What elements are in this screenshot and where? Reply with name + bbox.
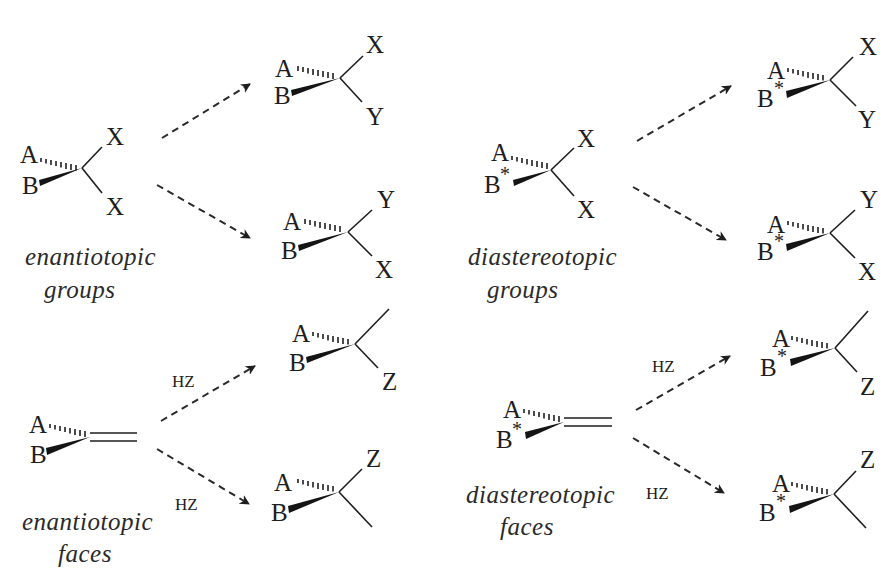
solid-wedge-bond-icon xyxy=(288,492,339,513)
hashed-wedge-bond-icon xyxy=(788,221,823,234)
atom-b: B xyxy=(760,354,777,381)
solid-wedge-bond-icon xyxy=(513,170,551,186)
caption-line1: diastereotopic xyxy=(468,243,617,270)
product-bottom-molecule: A B Z xyxy=(271,445,381,527)
hashed-wedge-bond-icon xyxy=(524,409,559,422)
atom-b: B xyxy=(274,82,291,109)
substrate-molecule: A B * X X xyxy=(484,125,595,223)
hashed-wedge-bond-icon xyxy=(50,424,85,437)
hashed-wedge-bond-icon xyxy=(788,68,823,81)
solid-wedge-bond-icon xyxy=(790,348,835,366)
stereocenter-mark: * xyxy=(774,230,784,252)
reagent-label: HZ xyxy=(646,484,669,503)
atom-down: X xyxy=(375,256,393,283)
atom-down: Z xyxy=(860,373,875,400)
atom-up: X xyxy=(366,31,384,58)
hashed-wedge-bond-icon xyxy=(313,332,348,345)
atom-a: A xyxy=(491,139,509,166)
stereocenter-mark: * xyxy=(777,345,787,367)
substrate-alkene: A B xyxy=(29,411,137,468)
product-top-molecule: A B X Y xyxy=(274,31,384,130)
substrate-alkene: A B * xyxy=(496,396,612,453)
atom-up: X xyxy=(106,123,124,150)
solid-wedge-bond-icon xyxy=(298,232,348,251)
reagent-label: HZ xyxy=(172,372,195,391)
panel-enantiotopic-groups: A B X X A B X Y xyxy=(20,31,395,303)
hashed-wedge-bond-icon xyxy=(305,219,340,232)
solid-wedge-bond-icon xyxy=(786,80,830,98)
atom-a: A xyxy=(29,411,47,438)
atom-a: A xyxy=(283,208,301,235)
atom-b: B xyxy=(496,426,513,453)
caption-line2: faces xyxy=(500,513,554,540)
atom-down: X xyxy=(858,258,876,285)
product-bottom-molecule: A B * Z xyxy=(759,446,875,528)
atom-b: B xyxy=(757,238,774,265)
stereocenter-mark: * xyxy=(500,163,510,185)
hashed-wedge-bond-icon xyxy=(41,158,76,171)
atom-up: X xyxy=(577,125,595,152)
atom-down: X xyxy=(577,196,595,223)
atom-up: X xyxy=(859,33,877,60)
topicity-diagram: A B X X A B X Y xyxy=(0,0,894,578)
atom-b: B xyxy=(484,171,501,198)
atom-a: A xyxy=(20,141,38,168)
atom-b: B xyxy=(759,499,776,526)
atom-b: B xyxy=(22,172,39,199)
solid-wedge-bond-icon xyxy=(39,168,82,186)
stereocenter-mark: * xyxy=(512,418,522,440)
reagent-label: HZ xyxy=(175,495,198,514)
product-top-molecule: A B Z xyxy=(289,309,397,395)
hashed-wedge-bond-icon xyxy=(512,156,547,169)
atom-up: Z xyxy=(860,446,875,473)
hashed-wedge-bond-icon xyxy=(792,336,827,349)
hashed-wedge-bond-icon xyxy=(792,482,827,495)
atom-b: B xyxy=(289,349,306,376)
caption-line1: diastereotopic xyxy=(466,481,615,508)
reagent-label: HZ xyxy=(652,357,675,376)
panel-diastereotopic-groups: A B * X X A B * X xyxy=(468,33,878,303)
dashed-arrow-icon xyxy=(157,449,249,504)
atom-down: X xyxy=(106,193,124,220)
solid-wedge-bond-icon xyxy=(789,494,834,513)
caption-line1: enantiotopic xyxy=(25,243,156,270)
hashed-wedge-bond-icon xyxy=(298,479,333,492)
dashed-arrow-icon xyxy=(636,356,730,410)
caption-line2: groups xyxy=(487,276,559,303)
atom-b: B xyxy=(30,441,47,468)
dashed-arrow-icon xyxy=(162,84,250,138)
caption-line1: enantiotopic xyxy=(22,508,153,535)
dashed-arrow-icon xyxy=(637,86,731,141)
solid-wedge-bond-icon xyxy=(306,344,355,363)
solid-wedge-bond-icon xyxy=(786,233,830,251)
atom-up: Y xyxy=(377,186,395,213)
panel-diastereotopic-faces: A B * HZ HZ A B * Z xyxy=(466,311,875,540)
atom-up: Z xyxy=(366,445,381,472)
atom-b: B xyxy=(271,499,288,526)
substrate-molecule: A B X X xyxy=(20,123,124,220)
atom-a: A xyxy=(292,320,310,347)
stereocenter-mark: * xyxy=(774,77,784,99)
atom-b: B xyxy=(281,237,298,264)
solid-wedge-bond-icon xyxy=(525,422,564,439)
atom-a: A xyxy=(275,55,293,82)
atom-up: Y xyxy=(860,186,878,213)
product-top-molecule: A B * Z xyxy=(760,311,875,400)
stereocenter-mark: * xyxy=(776,490,786,512)
product-bottom-molecule: A B Y X xyxy=(281,186,395,283)
caption-line2: groups xyxy=(44,276,116,303)
atom-down: Y xyxy=(366,103,384,130)
solid-wedge-bond-icon xyxy=(291,78,340,96)
atom-b: B xyxy=(757,85,774,112)
atom-down: Y xyxy=(858,106,876,133)
hashed-wedge-bond-icon xyxy=(298,66,333,79)
dashed-arrow-icon xyxy=(157,185,250,238)
caption-line2: faces xyxy=(58,540,112,567)
dashed-arrow-icon xyxy=(633,187,726,240)
product-bottom-molecule: A B * Y X xyxy=(757,186,878,285)
product-top-molecule: A B * X Y xyxy=(757,33,877,133)
atom-a: A xyxy=(274,469,292,496)
solid-wedge-bond-icon xyxy=(46,437,90,455)
atom-down: Z xyxy=(382,368,397,395)
panel-enantiotopic-faces: A B HZ HZ A B Z xyxy=(22,309,397,567)
